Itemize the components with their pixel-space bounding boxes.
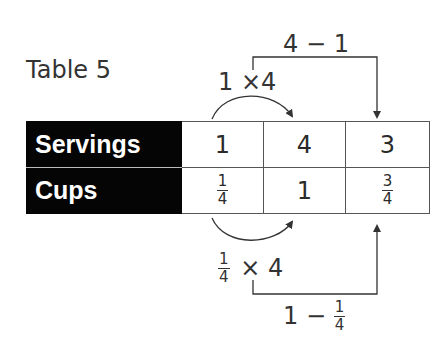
bottom-bracket-label: 1 − 1 4: [283, 300, 348, 333]
fraction: 1 4: [334, 300, 346, 333]
bottom-curve-arrow: [212, 218, 292, 240]
top-curve-arrow: [212, 96, 292, 119]
fraction: 1 4: [218, 252, 230, 285]
arrows-overlay: [0, 0, 439, 352]
bottom-curve-label: 1 4 × 4: [218, 252, 283, 285]
top-curve-label: 1 ×4: [218, 68, 276, 96]
top-bracket-label: 4 − 1: [283, 30, 349, 58]
